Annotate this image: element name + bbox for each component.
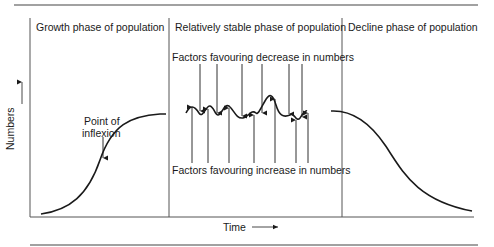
x-axis-label: Time <box>223 222 246 233</box>
phase-stable-label: Relatively stable phase of population <box>175 22 346 33</box>
decline-curve <box>331 111 472 211</box>
increase-arrows <box>192 99 308 163</box>
increase-factors-label: Factors favouring increase in numbers <box>172 165 351 176</box>
phase-decline-label: Decline phase of population <box>348 22 478 33</box>
phase-growth-label: Growth phase of population <box>36 22 164 33</box>
inflexion-label-line2: inflexion <box>82 128 121 139</box>
population-phase-diagram <box>0 0 494 247</box>
y-axis-label: Numbers <box>4 107 16 150</box>
decrease-factors-label: Factors favouring decrease in numbers <box>172 52 354 63</box>
decrease-arrows <box>200 64 302 117</box>
inflexion-label-line1: Point of <box>84 116 120 127</box>
